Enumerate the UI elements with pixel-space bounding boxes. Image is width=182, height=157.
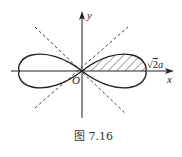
origin-label: O <box>72 74 80 86</box>
lemniscate-figure: y x O √2a 图 7.16 <box>0 0 182 157</box>
x-axis-label: x <box>166 73 172 85</box>
figure-caption: 图 7.16 <box>74 130 113 143</box>
intercept-label: √2a <box>147 59 163 70</box>
y-axis-label: y <box>86 9 92 21</box>
